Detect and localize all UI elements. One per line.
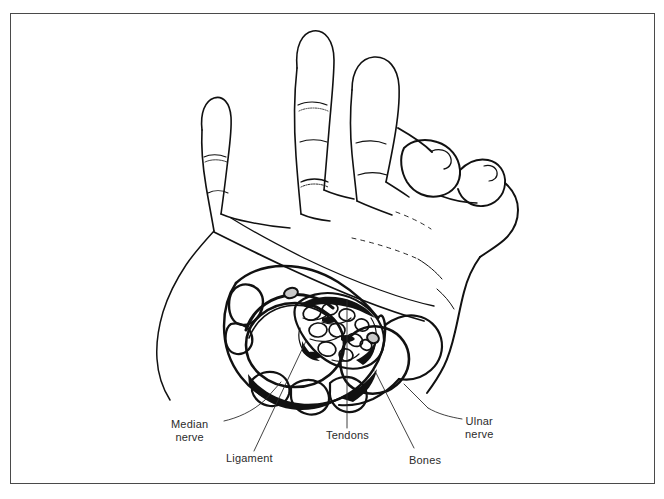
middle-finger <box>295 31 334 214</box>
label-tendons: Tendons <box>326 429 369 442</box>
palm-outline <box>157 182 409 400</box>
label-ligament-line1: Ligament <box>226 452 273 465</box>
thumb-and-folded-fingers <box>398 128 505 206</box>
median-nerve-structure <box>283 286 299 299</box>
index-finger <box>202 97 232 231</box>
label-tendons-line1: Tendons <box>326 429 369 442</box>
outer-hand-silhouette-right <box>427 183 518 393</box>
bone-carpal-left <box>226 323 253 354</box>
ulnar-nerve-structure <box>366 331 381 345</box>
anatomy-figure: Median nerve Ligament Tendons Bones Ulna… <box>0 0 664 499</box>
label-ligament: Ligament <box>226 452 273 465</box>
palm-soft-lines <box>418 259 454 309</box>
leader-median-nerve <box>224 400 265 421</box>
label-bones: Bones <box>409 454 441 467</box>
label-median-nerve: Median nerve <box>171 418 208 444</box>
leader-ulnar-nerve-2 <box>404 384 428 408</box>
label-bones-line1: Bones <box>409 454 441 467</box>
label-median-nerve-line2: nerve <box>171 431 208 444</box>
hand-anatomy-illustration <box>0 0 664 499</box>
label-median-nerve-line1: Median <box>171 418 208 431</box>
palm-detail-lines <box>352 212 431 259</box>
leader-ulnar-nerve <box>428 408 462 419</box>
label-ulnar-nerve-line2: nerve <box>465 428 494 441</box>
label-ulnar-nerve: Ulnar nerve <box>465 415 494 441</box>
ring-finger <box>351 57 400 201</box>
label-ulnar-nerve-line1: Ulnar <box>465 415 494 428</box>
